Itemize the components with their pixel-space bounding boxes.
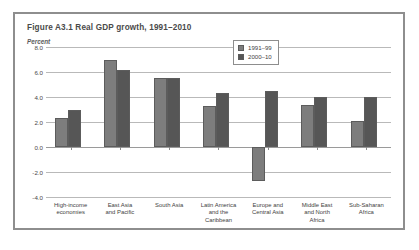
category-axis-label: South Asia: [145, 202, 194, 209]
bar-group: [292, 47, 341, 197]
category-axis-label-line: Middle East: [292, 202, 341, 209]
gridline: [46, 197, 391, 198]
category-axis-label-line: East Asia: [95, 202, 144, 209]
category-axis-label: High-incomeeconomies: [46, 202, 95, 217]
axis-tickmark: [218, 147, 219, 150]
category-axis-label-line: and Pacific: [95, 209, 144, 216]
y-axis-tick-label: -4.0: [32, 194, 43, 201]
category-axis-label-line: South Asia: [145, 202, 194, 209]
category-axis-label-line: Africa: [292, 217, 341, 224]
axis-tickmark: [366, 147, 367, 150]
chart-legend: 1991–99 2000–10: [233, 40, 279, 65]
legend-item-label: 1991–99: [248, 44, 272, 51]
bar: [68, 110, 81, 148]
y-axis-tick-label: 0.0: [34, 144, 43, 151]
axis-tickmark: [169, 147, 170, 150]
category-axis-label-line: economies: [46, 209, 95, 216]
category-axis-label: Latin Americaand theCaribbean: [194, 202, 243, 224]
bar: [55, 118, 68, 147]
bar: [301, 105, 314, 148]
bar: [216, 93, 229, 147]
legend-item: 1991–99: [238, 43, 272, 52]
category-axis-label-line: Caribbean: [194, 217, 243, 224]
bar: [104, 60, 117, 148]
figure-panel: Figure A3.1 Real GDP growth, 1991–2010 P…: [13, 12, 405, 230]
bar-group: [95, 47, 144, 197]
axis-tickmark: [120, 147, 121, 150]
category-axis-label-line: Africa: [342, 209, 391, 216]
legend-swatch-icon: [238, 45, 244, 51]
axis-tickmark: [317, 147, 318, 150]
figure-title: Figure A3.1 Real GDP growth, 1991–2010: [27, 23, 192, 32]
y-axis-tick-label: 8.0: [34, 44, 43, 51]
y-axis-tick-label: 2.0: [34, 119, 43, 126]
bar-group: [145, 47, 194, 197]
bar-group: [194, 47, 243, 197]
axis-tickmark: [71, 147, 72, 150]
bar: [351, 121, 364, 147]
legend-item: 2000–10: [238, 52, 272, 61]
bar-group: [46, 47, 95, 197]
category-axis-label: Sub-SaharanAfrica: [342, 202, 391, 217]
category-axis-label-line: Central Asia: [243, 209, 292, 216]
y-axis-tick-label: 4.0: [34, 94, 43, 101]
category-axis-label-line: High-income: [46, 202, 95, 209]
bar: [203, 106, 216, 147]
y-axis-tick-label: -2.0: [32, 169, 43, 176]
bar-group: [243, 47, 292, 197]
bar-group: [342, 47, 391, 197]
axis-tickmark: [268, 147, 269, 150]
bar: [314, 97, 327, 147]
legend-swatch-icon: [238, 54, 244, 60]
category-axis: High-incomeeconomiesEast Asiaand Pacific…: [46, 202, 391, 236]
category-axis-label-line: Sub-Saharan: [342, 202, 391, 209]
bar: [167, 78, 180, 147]
category-axis-label-line: Europe and: [243, 202, 292, 209]
bar: [117, 70, 130, 148]
category-axis-label-line: and the: [194, 209, 243, 216]
category-axis-label-line: Latin America: [194, 202, 243, 209]
plot-area: 8.06.04.02.00.0-2.0-4.0: [46, 47, 391, 197]
bar: [252, 147, 265, 181]
bar: [265, 91, 278, 147]
category-axis-label: Europe andCentral Asia: [243, 202, 292, 217]
y-axis-tick-label: 6.0: [34, 69, 43, 76]
category-axis-label-line: and North: [292, 209, 341, 216]
legend-item-label: 2000–10: [248, 53, 272, 60]
category-axis-label: Middle Eastand NorthAfrica: [292, 202, 341, 224]
bar: [364, 97, 377, 147]
bar: [154, 78, 167, 147]
category-axis-label: East Asiaand Pacific: [95, 202, 144, 217]
